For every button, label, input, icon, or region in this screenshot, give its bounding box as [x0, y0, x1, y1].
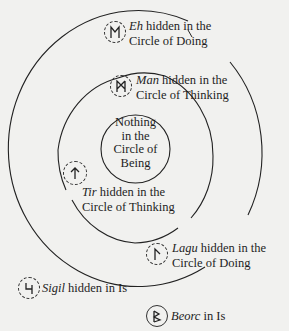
circle-of-doing-arc [230, 62, 262, 215]
label-text: hidden in the [159, 73, 227, 87]
rune-name: Tir [82, 185, 97, 199]
sigil-label: Sigil hidden in Is [42, 282, 127, 295]
sigil-rune-icon [18, 277, 40, 299]
lagu-label: Lagu hidden in the [172, 242, 266, 255]
label-text: hidden in the [198, 241, 266, 255]
tir-label: Tir hidden in the [82, 186, 165, 199]
center-line: Being [101, 157, 170, 171]
rune-name: Man [136, 73, 159, 87]
lagu-label-line2: Circle of Doing [172, 257, 250, 270]
tir-rune-icon [63, 161, 87, 185]
eh-label: Eh hidden in the [129, 20, 211, 33]
rune-name: Beorc [171, 309, 200, 323]
label-text: hidden in the [143, 19, 211, 33]
beorc-label: Beorc in Is [171, 310, 225, 323]
label-text: hidden in the [97, 185, 165, 199]
eh-rune-icon [104, 21, 126, 43]
rune-name: Sigil [42, 281, 65, 295]
eh-label-line2: Circle of Doing [129, 35, 207, 48]
rune-name: Eh [129, 19, 143, 33]
beorc-rune-icon [146, 305, 168, 327]
center-line: in the [101, 130, 170, 144]
center-line: Circle of [101, 143, 170, 157]
center-line: Nothing [101, 116, 170, 130]
label-text: in Is [200, 309, 225, 323]
rune-name: Lagu [172, 241, 198, 255]
center-text: Nothing in the Circle of Being [101, 116, 170, 170]
label-text: hidden in Is [65, 281, 127, 295]
man-label: Man hidden in the [136, 74, 227, 87]
man-label-line2: Circle of Thinking [136, 89, 229, 102]
man-rune-icon [110, 75, 132, 97]
lagu-rune-icon [146, 243, 168, 265]
tir-label-line2: Circle of Thinking [82, 201, 175, 214]
